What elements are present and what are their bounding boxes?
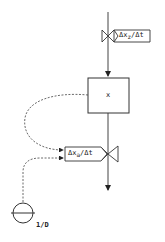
- inflow-label: Δxz/Δt: [119, 32, 144, 39]
- info-link-stock-to-outflow: [25, 94, 88, 150]
- auxiliary-label: 1/D: [36, 222, 49, 229]
- info-link-aux-to-outflow: [23, 158, 63, 202]
- inflow-label-suffix: /Δt: [131, 31, 144, 39]
- outflow-label-suffix: /Δt: [80, 149, 93, 157]
- inflow-label-sub: z: [127, 33, 131, 40]
- outflow-label-sub: a: [76, 151, 80, 158]
- stock-label: x: [106, 92, 110, 99]
- auxiliary-circle-icon: [11, 203, 35, 223]
- outflow-label: Δxa/Δt: [68, 150, 93, 157]
